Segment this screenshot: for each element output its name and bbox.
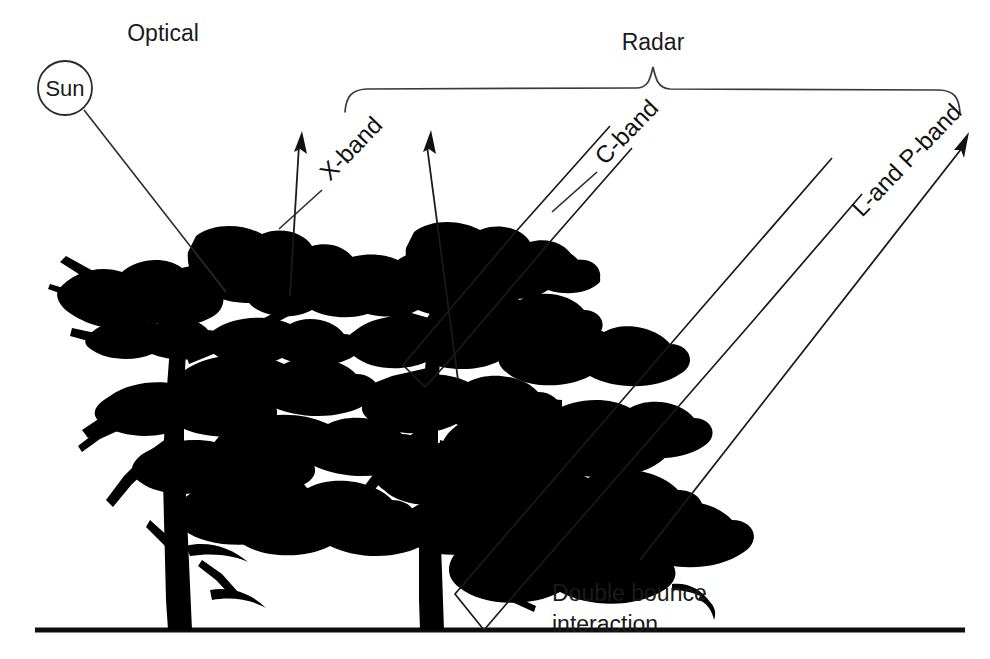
c-band-arrowhead: [423, 130, 436, 154]
x-band-label: X-band: [314, 111, 387, 185]
radar-canopy-diagram: Sun Optical Radar X-band C-band: [0, 0, 990, 659]
double-bounce-label-line2: interaction: [552, 611, 658, 637]
x-band-arrowhead: [294, 131, 307, 154]
double-bounce-label-line1: Double bounce: [552, 580, 707, 606]
sun-label: Sun: [45, 76, 84, 101]
diagram-canvas: Sun Optical Radar X-band C-band: [0, 0, 990, 659]
c-band-leader-line: [552, 172, 597, 212]
c-band-label: C-band: [589, 94, 663, 169]
x-band-leader-line: [279, 190, 322, 229]
radar-label: Radar: [622, 29, 685, 55]
optical-label: Optical: [127, 20, 199, 46]
lp-band-label: L-and P-band: [846, 98, 966, 221]
